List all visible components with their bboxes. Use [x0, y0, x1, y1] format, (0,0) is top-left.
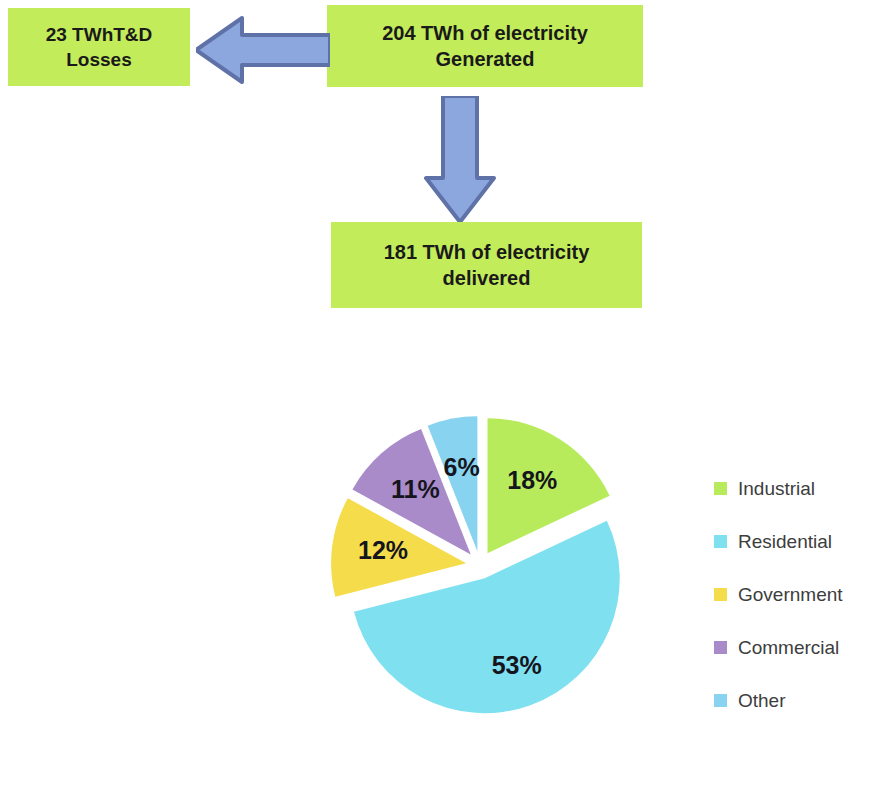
legend-item-industrial[interactable]: Industrial	[714, 462, 872, 515]
flow-box-losses: 23 TWhT&D Losses	[8, 8, 190, 86]
legend-swatch-other	[714, 694, 727, 707]
flow-box-generated: 204 TWh of electricity Generated	[327, 5, 643, 87]
legend-item-government[interactable]: Government	[714, 568, 872, 621]
pie-label-industrial: 18%	[507, 466, 557, 494]
legend-label-government: Government	[738, 584, 843, 606]
legend-swatch-residential	[714, 535, 727, 548]
pie-label-commercial: 11%	[391, 475, 440, 503]
legend-label-residential: Residential	[738, 531, 832, 553]
pie-label-other: 6%	[444, 453, 480, 481]
legend-label-commercial: Commercial	[738, 637, 839, 659]
left-arrow-shape	[196, 18, 330, 82]
flow-box-losses-label: 23 TWhT&D Losses	[46, 22, 153, 72]
down-arrow-shape	[426, 96, 494, 222]
legend-label-industrial: Industrial	[738, 478, 815, 500]
legend-item-other[interactable]: Other	[714, 674, 872, 727]
pie-label-residential: 53%	[492, 651, 542, 679]
flow-box-generated-label: 204 TWh of electricity Generated	[382, 20, 588, 73]
pie-legend: Industrial Residential Government Commer…	[714, 462, 872, 727]
legend-swatch-industrial	[714, 482, 727, 495]
left-arrow-icon	[196, 14, 330, 86]
legend-swatch-commercial	[714, 641, 727, 654]
legend-item-commercial[interactable]: Commercial	[714, 621, 872, 674]
flow-box-delivered: 181 TWh of electricity delivered	[331, 222, 642, 308]
legend-swatch-government	[714, 588, 727, 601]
flow-box-delivered-label: 181 TWh of electricity delivered	[384, 239, 590, 292]
pie-chart: 18%53%12%11%6%	[276, 372, 686, 766]
down-arrow-icon	[420, 96, 500, 222]
legend-item-residential[interactable]: Residential	[714, 515, 872, 568]
pie-label-government: 12%	[358, 536, 408, 564]
legend-label-other: Other	[738, 690, 786, 712]
